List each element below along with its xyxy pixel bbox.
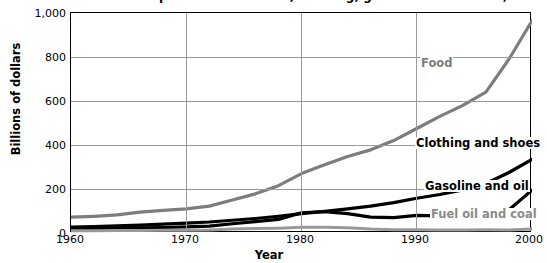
x-tick-1990: 1990: [385, 234, 445, 245]
series-label-gasoline: Gasoline and oil: [424, 180, 530, 192]
y-tick-200: 200: [2, 184, 66, 195]
x-tick-2000: 2000: [499, 234, 547, 245]
gridline-x-1990: [416, 13, 417, 231]
series-label-clothing: Clothing and shoes: [415, 137, 541, 149]
x-tick-1980: 1980: [270, 234, 330, 245]
y-tick-1000: 1,000: [2, 8, 66, 19]
x-axis-title: Year: [0, 248, 538, 262]
plot-area: [70, 12, 531, 232]
y-axis-title: Billions of dollars: [9, 39, 23, 159]
series-label-food: Food: [420, 57, 453, 69]
gridline-x-1980: [301, 13, 302, 231]
gridline-x-1970: [186, 13, 187, 231]
series-label-fuel-oil: Fuel oil and coal: [430, 208, 538, 220]
x-tick-1970: 1970: [155, 234, 215, 245]
x-tick-1960: 1960: [40, 234, 100, 245]
chart-title: Consumer expenditures on food, clothing,…: [70, 0, 547, 3]
